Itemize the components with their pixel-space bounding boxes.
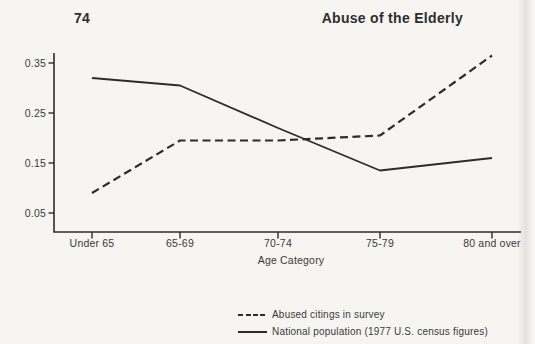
x-axis-title: Age Category [258,254,325,266]
x-tick-label: 80 and over [463,237,521,249]
chart-legend: Abused citings in survey National popula… [238,306,488,340]
x-tick-label: 75-79 [366,237,394,249]
legend-label: National population (1977 U.S. census fi… [272,326,488,337]
x-tick-label: 70-74 [264,237,292,249]
solid-line-swatch [238,331,267,333]
legend-item-survey: Abused citings in survey [238,306,488,323]
book-page: 74 Abuse of the Elderly 0.050.150.250.35… [0,0,535,344]
x-tick-label: 65-69 [166,237,194,249]
x-tick-label: Under 65 [70,237,115,249]
legend-item-population: National population (1977 U.S. census fi… [238,323,488,340]
y-tick-label: 0.35 [25,57,46,69]
y-tick-label: 0.15 [25,157,46,169]
y-tick-label: 0.25 [25,107,46,119]
series-line-dashed [92,56,492,194]
y-tick-label: 0.05 [25,207,46,219]
line-chart: 0.050.150.250.35Under 6565-6970-7475-798… [0,0,535,282]
legend-label: Abused citings in survey [272,309,385,320]
dashed-line-swatch [238,314,267,316]
